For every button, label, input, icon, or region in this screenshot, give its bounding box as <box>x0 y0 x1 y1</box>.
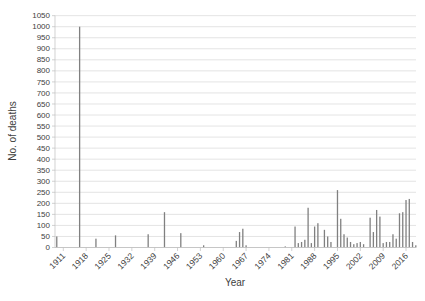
bar <box>360 242 361 248</box>
y-tick-label: 50 <box>41 232 50 241</box>
x-tick-label: 1960 <box>207 251 228 272</box>
bar <box>330 242 331 248</box>
bar <box>95 239 96 248</box>
y-tick-label: 0 <box>46 243 51 252</box>
x-tick-label: 1953 <box>184 251 205 272</box>
bar <box>239 232 240 247</box>
x-tick-label: 2009 <box>367 251 388 272</box>
y-tick-label: 750 <box>37 78 51 87</box>
y-tick-label: 100 <box>37 221 51 230</box>
bar <box>386 242 387 248</box>
y-tick-label: 850 <box>37 55 51 64</box>
y-tick-label: 1050 <box>32 11 50 20</box>
bar <box>379 217 380 248</box>
y-tick-label: 450 <box>37 144 51 153</box>
y-tick-label: 900 <box>37 44 51 53</box>
bar <box>148 234 149 247</box>
bar <box>399 213 400 247</box>
bar <box>373 232 374 247</box>
bar <box>324 230 325 248</box>
bar <box>317 223 318 247</box>
y-tick-label: 650 <box>37 100 51 109</box>
chart-canvas: 0501001502002503003504004505005506006507… <box>0 0 425 301</box>
bar <box>115 235 116 247</box>
x-tick-label: 1995 <box>321 251 342 272</box>
bar <box>311 243 312 247</box>
y-tick-label: 350 <box>37 166 51 175</box>
x-tick-label: 1974 <box>252 251 273 272</box>
y-axis-title: No. of deaths <box>7 86 21 176</box>
y-tick-label: 400 <box>37 155 51 164</box>
bar <box>298 243 299 247</box>
y-tick-label: 1000 <box>32 22 50 31</box>
y-tick-label: 150 <box>37 210 51 219</box>
bar <box>369 218 370 248</box>
bar <box>236 241 237 248</box>
deaths-by-year-bar-chart: 0501001502002503003504004505005506006507… <box>0 0 425 301</box>
bar <box>56 236 57 247</box>
x-tick-label: 1911 <box>47 251 67 271</box>
bar <box>405 200 406 247</box>
bar <box>340 219 341 248</box>
x-tick-label: 1932 <box>115 251 136 272</box>
y-tick-label: 300 <box>37 177 51 186</box>
bar <box>383 243 384 247</box>
bar <box>343 234 344 247</box>
bar <box>389 242 390 248</box>
bar <box>79 27 80 248</box>
bar <box>363 244 364 247</box>
bar <box>307 208 308 248</box>
y-tick-label: 950 <box>37 33 51 42</box>
bar <box>376 210 377 248</box>
x-tick-label: 1981 <box>275 251 296 272</box>
bar <box>314 227 315 248</box>
bar <box>301 242 302 248</box>
y-tick-label: 500 <box>37 133 51 142</box>
bar <box>304 240 305 248</box>
bar <box>180 233 181 247</box>
x-tick-label: 1918 <box>70 251 91 272</box>
x-tick-label: 2002 <box>344 251 365 272</box>
bar <box>347 238 348 248</box>
x-axis-title: Year <box>195 277 275 288</box>
bar <box>294 227 295 248</box>
y-tick-label: 550 <box>37 122 51 131</box>
x-tick-label: 1967 <box>230 251 251 272</box>
y-tick-label: 600 <box>37 111 51 120</box>
x-tick-label: 1988 <box>298 251 319 272</box>
x-tick-label: 1939 <box>138 251 159 272</box>
y-tick-label: 250 <box>37 188 51 197</box>
bar <box>412 242 413 248</box>
bar <box>337 190 338 247</box>
x-tick-label: 1925 <box>92 251 113 272</box>
bar <box>242 229 243 248</box>
x-tick-label: 1946 <box>161 251 182 272</box>
y-tick-label: 200 <box>37 199 51 208</box>
y-tick-label: 800 <box>37 66 51 75</box>
bar <box>327 236 328 247</box>
x-tick-label: 2016 <box>389 251 410 272</box>
bar <box>353 244 354 247</box>
bar <box>356 243 357 247</box>
bar <box>402 212 403 247</box>
y-tick-label: 700 <box>37 89 51 98</box>
bar <box>164 212 165 247</box>
bar <box>392 234 393 247</box>
bar <box>350 242 351 248</box>
bar <box>409 199 410 248</box>
bar <box>396 239 397 248</box>
